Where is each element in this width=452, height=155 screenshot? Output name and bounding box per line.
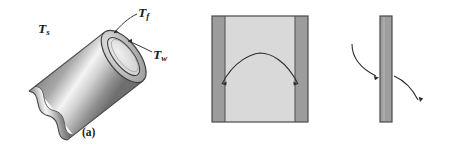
heat-in-arc-qf [352,44,376,76]
panel-c-drawing [330,0,452,155]
label-wall-temperature: Tw [153,48,167,63]
wall-band-right [295,16,308,122]
three-panel-heat-transfer-figure: Ts Tf Tw (a) Qf (b) [0,0,452,155]
heat-out-arc-qw [394,76,418,100]
panel-a-drawing [0,0,200,155]
label-surface-temperature: Ts [38,22,50,37]
cross-section-core [212,16,308,122]
panel-a-tube-diagram: Ts Tf Tw (a) [0,0,200,155]
wall-slab [380,16,392,122]
caption-panel-a: (a) [82,126,95,138]
label-fluid-temperature: Tf [138,6,149,21]
panel-b-cross-section: Qf (b) [200,0,330,155]
panel-b-drawing [200,0,330,155]
panel-c-wall-slab: Qf Qw (c) [330,0,452,155]
heat-in-arrowhead-qf [374,76,379,80]
heat-out-arrowhead-qw [419,97,423,102]
leader-line-tf [114,14,137,33]
wall-band-left [212,16,225,122]
